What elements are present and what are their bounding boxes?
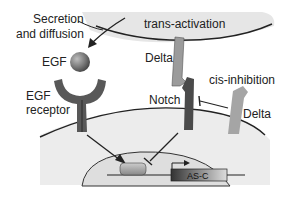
gene-label: AS-C bbox=[187, 170, 209, 183]
egf-receptor-label-1: EGF bbox=[26, 90, 51, 103]
delta-top bbox=[172, 37, 186, 86]
egf-ligand bbox=[70, 52, 90, 72]
delta-top-label: Delta bbox=[145, 52, 173, 65]
transcription-factor bbox=[120, 163, 146, 175]
notch-label: Notch bbox=[149, 94, 180, 107]
delta-right-label: Delta bbox=[243, 108, 271, 121]
secretion-label: Secretion bbox=[33, 13, 84, 26]
diffusion-label: and diffusion bbox=[16, 28, 84, 41]
egf-label: EGF bbox=[42, 56, 67, 69]
egf-receptor-label-2: receptor bbox=[26, 104, 70, 117]
cis-inhibition-label: cis-inhibition bbox=[209, 74, 275, 87]
trans-activation-label: trans-activation bbox=[144, 18, 225, 31]
